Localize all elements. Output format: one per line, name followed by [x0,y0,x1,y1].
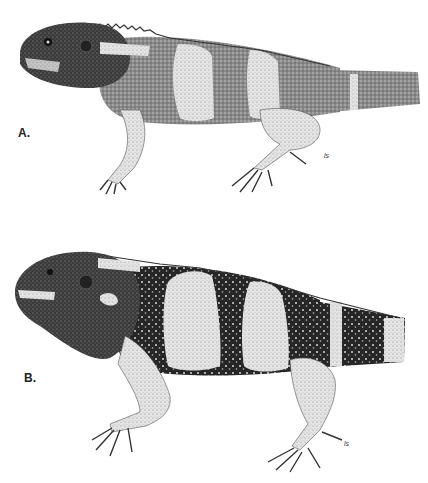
lizard-drawings [0,0,428,483]
panel-label-a: A. [18,126,30,140]
artist-signature-b: ls [344,440,349,447]
artist-signature-a: ls [324,152,329,159]
scientific-illustration: A. ls B. ls [0,0,428,483]
lizard-b [15,252,405,472]
panel-label-b: B. [24,371,36,385]
lizard-a [20,22,420,194]
